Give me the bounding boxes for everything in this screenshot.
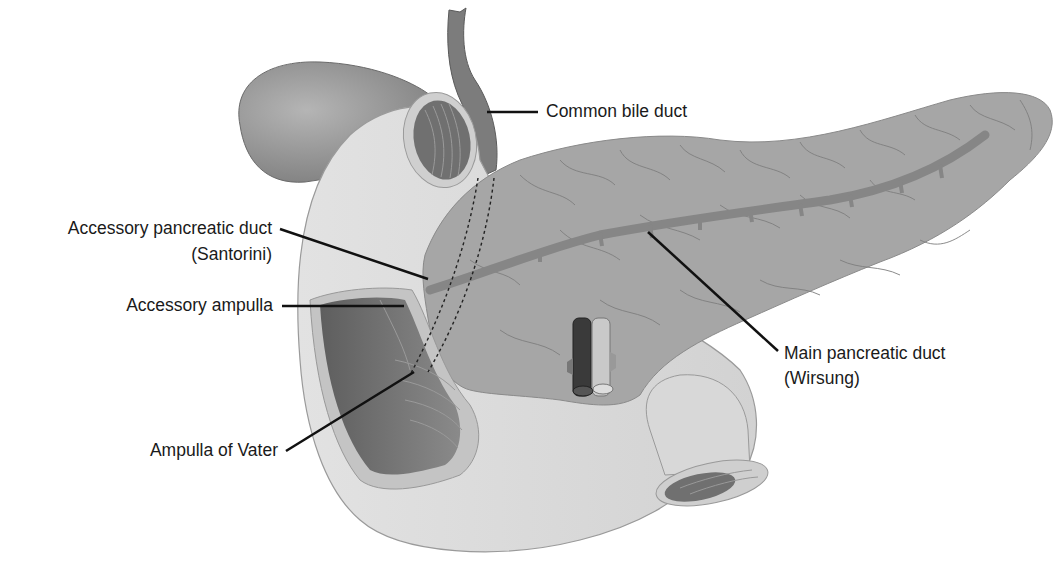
label-common-bile-duct: Common bile duct: [546, 101, 687, 122]
label-main-pancreatic-duct: Main pancreatic duct: [784, 343, 945, 364]
pancreas-anatomy-illustration: [0, 0, 1058, 564]
label-accessory-ampulla: Accessory ampulla: [0, 295, 273, 316]
pancreas: [423, 93, 1052, 405]
label-wirsung: (Wirsung): [784, 368, 860, 389]
label-ampulla-of-vater: Ampulla of Vater: [0, 440, 278, 461]
label-accessory-pancreatic-duct: Accessory pancreatic duct: [0, 218, 272, 239]
label-santorini: (Santorini): [0, 244, 272, 265]
mesenteric-vessels: [567, 318, 616, 396]
